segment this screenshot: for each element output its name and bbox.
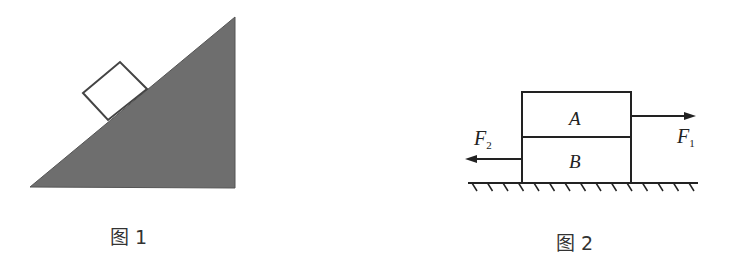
hatch-mark [658,183,663,191]
force-f1-arrowhead [684,112,696,120]
hatch-mark [689,183,694,191]
block-b-label: B [569,151,581,172]
figure-2 [465,92,698,191]
force-f2-label: F2 [473,127,492,151]
force-f2-arrowhead [465,155,477,163]
hatch-mark [627,183,632,191]
force-f1-label: F1 [676,125,695,149]
hatch-mark [612,183,617,191]
hatch-mark [534,183,539,191]
hatch-mark [488,183,493,191]
figure-2-caption: 图 2 [556,228,593,255]
hatch-mark [596,183,601,191]
block-a-label: A [567,108,581,129]
hatch-mark [643,183,648,191]
hatch-mark [519,183,524,191]
ground-hatching [472,183,694,191]
hatch-mark [472,183,477,191]
inclined-plane [30,17,235,188]
figure-1-caption: 图 1 [110,222,147,249]
figure-1 [30,17,235,188]
hatch-mark [674,183,679,191]
hatch-mark [565,183,570,191]
hatch-mark [581,183,586,191]
hatch-mark [503,183,508,191]
hatch-mark [550,183,555,191]
